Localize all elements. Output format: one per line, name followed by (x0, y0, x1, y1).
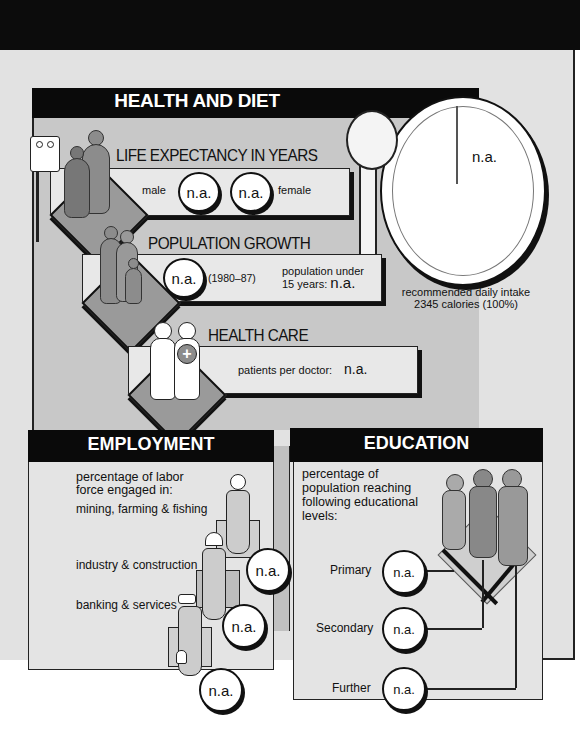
under15-block: population under 15 years: n.a. (282, 265, 364, 290)
education-title: EDUCATION (290, 433, 543, 454)
diet-caption-line1: recommended daily intake (386, 286, 546, 298)
student-icon-primary (442, 490, 466, 550)
bell-icon (176, 650, 187, 664)
employment-title: EMPLOYMENT (28, 434, 274, 455)
population-growth-circle: n.a. (163, 258, 205, 298)
person-icon-child (125, 268, 142, 304)
banking-value-circle: n.a. (199, 668, 243, 712)
connector-secondary (426, 628, 482, 630)
connector-further (426, 688, 516, 690)
male-value-circle: n.a. (178, 172, 220, 212)
female-value-circle: n.a. (230, 172, 272, 212)
health-care-label: HEALTH CARE (208, 326, 308, 346)
level-label-primary: Primary (330, 563, 371, 577)
level-label-secondary: Secondary (316, 621, 373, 635)
level-label-further: Further (332, 681, 371, 695)
industry-value-circle: n.a. (222, 604, 266, 648)
connector-secondary-v (482, 560, 484, 628)
population-growth-period: (1980–87) (208, 272, 256, 284)
sector-label-industry: industry & construction (76, 558, 197, 572)
employment-intro-line2: force engaged in: (76, 484, 184, 497)
education-intro-line2: population reaching (302, 481, 418, 495)
further-value-circle: n.a. (382, 667, 426, 711)
under15-label-line2: 15 years: (282, 278, 327, 290)
connector-primary (426, 570, 454, 572)
secondary-value-circle: n.a. (382, 607, 426, 651)
employment-back-panel (274, 446, 290, 631)
mining-value-circle: n.a. (246, 548, 290, 592)
doctor-icon (150, 338, 176, 400)
top-black-band (0, 0, 580, 50)
employment-intro: percentage of labor force engaged in: (76, 471, 184, 497)
businessman-icon (178, 606, 202, 676)
life-expectancy-label: LIFE EXPECTANCY IN YEARS (116, 146, 317, 166)
calendar-icon (30, 136, 60, 172)
education-intro-line3: following educational (302, 495, 418, 509)
education-intro: percentage of population reaching follow… (302, 467, 418, 523)
female-label: female (278, 184, 311, 196)
spoon-icon (346, 110, 398, 170)
plate-value: n.a. (472, 148, 497, 165)
sector-label-banking: banking & services (76, 598, 177, 612)
under15-value: n.a. (330, 274, 355, 291)
education-intro-line4: levels: (302, 509, 418, 523)
panel-cutout (0, 660, 30, 731)
patients-per-doctor-value: n.a. (344, 361, 367, 377)
farmer-icon (226, 490, 250, 554)
plate-divider (456, 106, 458, 184)
hardhat-icon (205, 532, 223, 546)
student-icon-secondary (469, 486, 497, 558)
farmer-head-icon (230, 474, 246, 490)
person-icon-female (64, 158, 90, 218)
primary-value-circle: n.a. (382, 550, 426, 594)
male-label: male (142, 184, 166, 196)
diet-caption-line2: 2345 calories (100%) (386, 298, 546, 310)
patients-per-doctor-label: patients per doctor: (238, 364, 332, 376)
diet-caption: recommended daily intake 2345 calories (… (386, 286, 546, 310)
construction-worker-icon (202, 548, 226, 620)
hat-icon (178, 594, 196, 604)
connector-further-v (515, 566, 517, 688)
medical-cross-icon: + (177, 344, 197, 364)
plate-rim (392, 106, 534, 276)
health-diet-title: HEALTH AND DIET (32, 90, 362, 112)
student-icon-further (498, 486, 528, 566)
education-intro-line1: percentage of (302, 467, 418, 481)
population-growth-label: POPULATION GROWTH (148, 234, 310, 254)
sector-label-mining: mining, farming & fishing (76, 502, 207, 516)
education-back-panel (543, 446, 575, 660)
